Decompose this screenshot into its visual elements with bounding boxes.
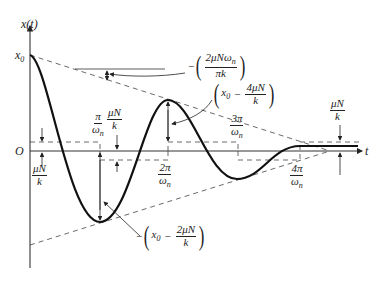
- decay-leader: [110, 73, 185, 76]
- tick-4pi-den-text: ω: [291, 175, 299, 187]
- decay-rate-num-text: 2μNω: [206, 51, 232, 63]
- decay-rate-num: 2μNωn: [205, 52, 237, 68]
- left-paren: (: [196, 52, 202, 80]
- tick-pi-den-sub: n: [100, 129, 104, 138]
- first-trough-fraction: 2μN k: [176, 224, 196, 248]
- left-paren: (: [214, 80, 220, 108]
- left-paren: (: [144, 222, 150, 250]
- decay-rate-num-sub: n: [232, 58, 236, 67]
- t-axis-label: t: [365, 145, 368, 157]
- tick-3pi-den-sub: n: [239, 131, 243, 140]
- y-axis-label: x(t): [21, 18, 38, 30]
- tick-2pi-den: ωn: [158, 175, 172, 190]
- x0-label-sub: 0: [20, 55, 24, 64]
- tick-3pi-den: ωn: [230, 126, 244, 141]
- tick-2pi-label: 2π ωn: [158, 162, 172, 189]
- first-trough-sign: −: [136, 230, 142, 242]
- first-trough-prefix: x0: [152, 228, 161, 243]
- band-bottom-left-num: μN: [32, 163, 47, 176]
- tick-2pi-den-sub: n: [167, 180, 171, 189]
- second-peak-prefix: x0: [221, 86, 230, 101]
- band-right-den: k: [334, 111, 341, 123]
- decay-rate-fraction: 2μNωn πk: [205, 52, 237, 79]
- tick-2pi-den-text: ω: [159, 174, 167, 186]
- right-paren: ): [240, 52, 246, 80]
- band-top-mid-num: μN: [107, 107, 122, 120]
- tick-4pi-label: 4π ωn: [290, 163, 304, 190]
- first-trough-num: 2μN: [176, 224, 196, 237]
- band-top-mid-label: μN k: [107, 107, 122, 131]
- first-trough-label: − ( x0 − 2μN k ): [136, 222, 206, 250]
- band-right-label: μN k: [330, 98, 345, 122]
- origin-label-text: O: [15, 144, 24, 158]
- response-curve: [30, 55, 358, 222]
- decay-rate-label: − ( 2μNωn πk ): [188, 52, 247, 80]
- coulomb-damping-diagram: x(t) t O x0 − ( 2μNωn πk ) ( x0 − 4μN k …: [0, 0, 382, 282]
- band-bottom-left-label: μN k: [32, 163, 47, 187]
- y-axis-label-text: x(t): [21, 17, 38, 31]
- tick-pi-label: π ωn: [91, 111, 105, 138]
- band-bottom-left-den: k: [36, 176, 43, 188]
- right-paren: ): [199, 222, 205, 250]
- band-right-num: μN: [330, 98, 345, 111]
- tick-4pi-den-sub: n: [299, 181, 303, 190]
- first-trough-op: −: [164, 230, 170, 242]
- second-peak-label: ( x0 − 4μN k ): [212, 80, 276, 108]
- x0-label: x0: [15, 49, 24, 64]
- second-peak-prefix-sub: 0: [226, 93, 230, 102]
- second-peak-den: k: [253, 95, 258, 107]
- tick-4pi-den: ωn: [290, 176, 304, 191]
- band-top-mid-den: k: [111, 120, 118, 132]
- second-peak-op: −: [234, 88, 240, 100]
- tick-pi-den-text: ω: [92, 123, 100, 135]
- origin-label: O: [15, 145, 24, 157]
- right-paren: ): [269, 80, 275, 108]
- first-trough-den: k: [183, 237, 188, 249]
- tick-3pi-label: 3π ωn: [230, 113, 244, 140]
- t-axis-label-text: t: [365, 144, 368, 158]
- second-peak-num: 4μN: [245, 82, 265, 95]
- decay-rate-sign: −: [188, 60, 194, 72]
- tick-pi-den: ωn: [91, 124, 105, 139]
- tick-3pi-den-text: ω: [231, 125, 239, 137]
- second-peak-fraction: 4μN k: [245, 82, 265, 106]
- first-trough-prefix-sub: 0: [156, 235, 160, 244]
